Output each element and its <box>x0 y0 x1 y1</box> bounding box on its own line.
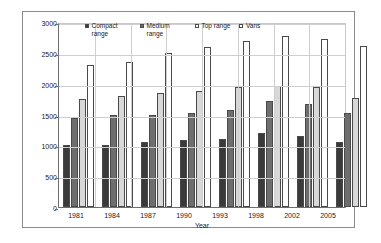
category-separator <box>95 24 96 207</box>
x-axis-tick-label: 1998 <box>238 212 274 220</box>
category-separator <box>166 24 167 207</box>
y-axis-tick-mark <box>55 24 58 25</box>
bar-group <box>215 24 254 207</box>
x-axis-tick-labels: 19811984198719901993199820022005 <box>58 212 346 220</box>
x-axis-tick-label: 1990 <box>166 212 202 220</box>
bar[interactable] <box>204 47 211 207</box>
y-axis-tick-label: 1500 <box>41 112 57 119</box>
bar[interactable] <box>118 96 125 207</box>
y-axis-tick-mark <box>55 147 58 148</box>
category-separator <box>131 24 132 207</box>
bar[interactable] <box>157 93 164 207</box>
bar[interactable] <box>110 115 117 208</box>
y-axis-tick-labels: 300025002000150010005000 <box>29 12 57 227</box>
bar[interactable] <box>258 133 265 207</box>
legend-swatch-icon <box>85 24 89 28</box>
bar[interactable] <box>149 115 156 208</box>
bar[interactable] <box>227 110 234 207</box>
y-axis-tick-mark <box>55 117 58 118</box>
bar[interactable] <box>219 139 226 207</box>
bar-group <box>137 24 176 207</box>
bar[interactable] <box>141 142 148 207</box>
y-axis-tick-label: 0 <box>53 205 57 212</box>
bar[interactable] <box>188 113 195 207</box>
legend-swatch-icon <box>195 24 199 28</box>
legend-label: Top range <box>202 22 231 30</box>
legend-item[interactable]: Vans <box>239 22 260 30</box>
category-separator <box>238 24 239 207</box>
y-axis-tick-label: 3000 <box>41 20 57 27</box>
y-axis-tick-label: 2000 <box>41 81 57 88</box>
y-axis-tick-mark <box>55 55 58 56</box>
bar[interactable] <box>126 62 133 207</box>
category-separator <box>202 24 203 207</box>
bar[interactable] <box>63 145 70 207</box>
bar[interactable] <box>336 142 343 207</box>
y-axis-tick-label: 500 <box>45 174 57 181</box>
legend-item[interactable]: Top range <box>195 22 230 30</box>
x-axis-tick-label: 2002 <box>274 212 310 220</box>
bar-group <box>293 24 332 207</box>
bar[interactable] <box>282 36 289 207</box>
x-axis-tick-label: 2005 <box>310 212 346 220</box>
bar[interactable] <box>360 46 367 207</box>
chart-legend: Compact rangeMedium rangeTop rangeVans <box>85 22 260 38</box>
bar[interactable] <box>352 98 359 207</box>
bar-group <box>59 24 98 207</box>
bar-group <box>332 24 371 207</box>
chart-frame: Weight [kg] 300025002000150010005000 198… <box>22 11 355 228</box>
y-axis-tick-mark <box>55 209 58 210</box>
y-axis-tick-mark <box>55 86 58 87</box>
legend-label: Compact range <box>92 22 132 38</box>
x-axis-tick-label: 1984 <box>94 212 130 220</box>
legend-swatch-icon <box>140 24 144 28</box>
bar[interactable] <box>102 145 109 207</box>
bar[interactable] <box>71 118 78 207</box>
legend-label: Medium range <box>147 22 187 38</box>
bar[interactable] <box>243 41 250 208</box>
category-separator <box>274 24 275 207</box>
bar[interactable] <box>321 39 328 207</box>
legend-item[interactable]: Medium range <box>140 22 186 38</box>
plot-area <box>58 23 346 208</box>
bar[interactable] <box>79 99 86 207</box>
category-separator <box>309 24 310 207</box>
legend-swatch-icon <box>239 24 243 28</box>
x-axis-tick-label: 1981 <box>58 212 94 220</box>
legend-label: Vans <box>246 22 260 30</box>
bar[interactable] <box>274 86 281 207</box>
x-axis-tick-label: 1987 <box>130 212 166 220</box>
x-axis-title: Year <box>58 222 346 229</box>
y-axis-tick-mark <box>55 178 58 179</box>
legend-item[interactable]: Compact range <box>85 22 131 38</box>
bar[interactable] <box>344 113 351 207</box>
x-axis-tick-label: 1993 <box>202 212 238 220</box>
bar-group <box>176 24 215 207</box>
y-axis-tick-label: 2500 <box>41 50 57 57</box>
bar[interactable] <box>180 140 187 207</box>
y-axis-tick-label: 1000 <box>41 143 57 150</box>
